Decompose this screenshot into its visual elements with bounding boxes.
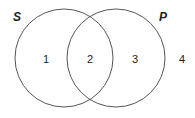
- region-2-label: 2: [87, 53, 93, 65]
- set-s-circle: [15, 9, 113, 107]
- region-3-label: 3: [132, 53, 138, 65]
- region-1-label: 1: [43, 53, 49, 65]
- set-p-label: P: [159, 10, 168, 24]
- region-4-label: 4: [179, 53, 185, 65]
- set-p-circle: [67, 9, 165, 107]
- set-s-label: S: [13, 10, 21, 24]
- venn-diagram: S P 1 2 3 4: [0, 0, 195, 118]
